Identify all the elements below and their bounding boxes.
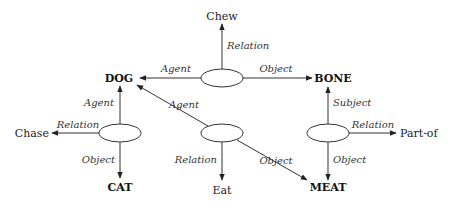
- label-top-relation: Relation: [226, 40, 269, 51]
- label-mid-object: Object: [259, 155, 293, 166]
- label-right-object: Object: [333, 154, 367, 165]
- relation-part-of: Part-of: [400, 127, 438, 140]
- concept-dog: DOG: [105, 72, 134, 85]
- concept-bone: BONE: [314, 72, 352, 85]
- proposition-top: Chew Relation Agent Object: [140, 10, 312, 87]
- label-mid-relation: Relation: [174, 154, 217, 165]
- relation-chew: Chew: [206, 10, 238, 23]
- proposition-node-top: [201, 69, 243, 87]
- proposition-left: Chase Agent Relation Object: [15, 86, 141, 178]
- proposition-node-left: [99, 124, 141, 142]
- relation-chase: Chase: [15, 127, 49, 140]
- label-mid-agent: Agent: [168, 99, 200, 110]
- label-top-agent: Agent: [160, 63, 192, 74]
- concept-cat: CAT: [108, 181, 134, 194]
- label-top-object: Object: [259, 63, 293, 74]
- label-left-relation: Relation: [56, 119, 99, 130]
- label-left-agent: Agent: [83, 97, 115, 108]
- proposition-node-middle: [201, 124, 243, 142]
- label-right-relation: Relation: [351, 119, 394, 130]
- concept-meat: MEAT: [310, 181, 347, 194]
- proposition-middle: Eat Agent Relation Object: [137, 85, 307, 197]
- relation-eat: Eat: [212, 184, 232, 197]
- proposition-node-right: [307, 124, 349, 142]
- proposition-right: Part-of Subject Relation Object: [307, 87, 438, 180]
- label-left-object: Object: [82, 154, 116, 165]
- label-right-subject: Subject: [333, 97, 372, 108]
- semantic-network-diagram: Chew Relation Agent Object DOG BONE CAT …: [0, 0, 456, 208]
